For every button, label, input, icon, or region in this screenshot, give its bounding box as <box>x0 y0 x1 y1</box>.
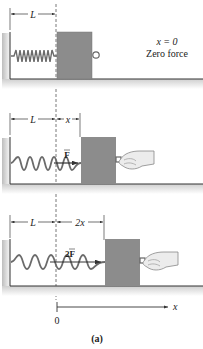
spring <box>11 50 57 62</box>
panel-stretch-2x: L 2x 2F <box>2 215 203 296</box>
ring-hook <box>93 52 99 58</box>
dimension-L-label: L <box>29 114 36 125</box>
force-label: 2F <box>65 249 76 259</box>
spring-diagram: L x = 0 Zero force L x F <box>0 0 203 349</box>
hand-icon <box>140 252 178 270</box>
block <box>81 137 116 184</box>
panel-stretch-x: L x F <box>2 113 203 194</box>
state-zero-force: Zero force <box>146 48 188 59</box>
x-axis: 0 x <box>55 301 179 326</box>
dimension-x-label: x <box>65 114 71 125</box>
figure-caption: (a) <box>91 333 103 345</box>
block <box>57 32 92 79</box>
state-x-equals-zero: x = 0 <box>155 36 177 47</box>
hand-icon <box>116 151 154 169</box>
dimension-2x-label: 2x <box>75 217 85 228</box>
force-label: F <box>64 150 70 160</box>
dimension-L-label: L <box>29 217 36 228</box>
panel-rest: L x = 0 Zero force <box>2 8 203 89</box>
block <box>105 239 140 286</box>
axis-x-label: x <box>172 301 178 312</box>
dimension-L-label: L <box>29 9 36 20</box>
axis-origin-label: 0 <box>55 315 60 326</box>
